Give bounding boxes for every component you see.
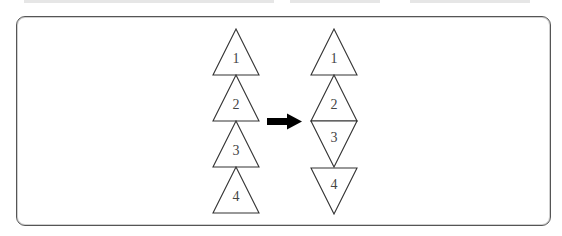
triangle-label: 1 bbox=[233, 51, 240, 66]
left-column: 1 2 3 4 bbox=[213, 29, 259, 213]
right-triangle-4: 4 bbox=[311, 168, 357, 214]
right-triangle-1: 1 bbox=[311, 29, 357, 75]
triangle-label: 3 bbox=[233, 143, 240, 158]
triangle-label: 3 bbox=[331, 130, 338, 145]
triangle-label: 2 bbox=[331, 97, 338, 112]
right-column: 1 2 3 4 bbox=[311, 29, 357, 214]
right-triangle-2: 2 bbox=[311, 75, 357, 121]
right-triangle-3: 3 bbox=[311, 121, 357, 167]
triangle-label: 1 bbox=[331, 51, 338, 66]
left-triangle-2: 2 bbox=[213, 75, 259, 121]
left-triangle-1: 1 bbox=[213, 29, 259, 75]
triangle-transformation-diagram: 1 2 3 4 1 2 3 bbox=[0, 0, 562, 236]
left-triangle-4: 4 bbox=[213, 167, 259, 213]
left-triangle-3: 3 bbox=[213, 121, 259, 167]
triangle-label: 4 bbox=[331, 177, 338, 192]
right-arrow-icon bbox=[267, 114, 302, 130]
triangle-label: 2 bbox=[233, 97, 240, 112]
triangle-label: 4 bbox=[233, 189, 240, 204]
